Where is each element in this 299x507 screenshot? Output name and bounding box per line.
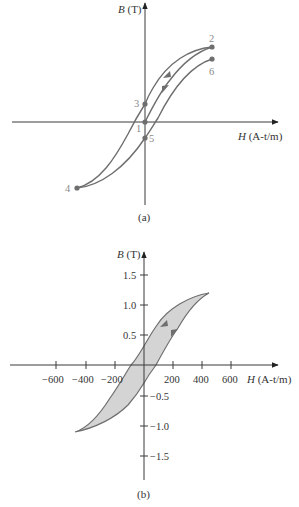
y-tick-label: −0.5 [150,391,169,402]
x-tick-label: 400 [193,374,209,385]
panel-label-a: (a) [138,211,151,224]
x-tick-label: 200 [164,374,180,385]
panel-label-b: (b) [137,488,150,501]
point-label-1: 1 [136,123,141,134]
point-label-6: 6 [209,66,214,77]
x-tick-label: −600 [42,374,64,385]
point-label-4: 4 [65,183,71,194]
x-tick-label: −400 [72,374,94,385]
chart-panel-b: B (T) H (A-t/m) −600 −400 −200 200 400 6… [10,248,292,501]
point-4 [74,185,79,190]
b-axis-label-b: B (T) [117,248,141,261]
y-tick-label: 1.0 [123,300,136,311]
b-axis-label-a: B (T) [118,3,142,16]
y-tick-label: −1.5 [150,451,169,462]
y-tick-label: 0.5 [123,330,136,341]
hysteresis-loop-b [75,293,209,432]
x-tick-label: −200 [101,374,123,385]
h-axis-label-a: H (A-t/m) [237,130,283,143]
h-axis-label-b: H (A-t/m) [246,373,292,386]
point-label-2: 2 [209,33,214,44]
chart-panel-a: B (T) H (A-t/m) 1 2 3 4 5 6 (a) [12,3,283,224]
y-tick-label: 1.5 [123,270,136,281]
point-2 [209,44,214,49]
point-label-5: 5 [149,133,154,144]
point-label-3: 3 [134,98,139,109]
y-tick-label: −1.0 [150,421,169,432]
point-3 [142,101,147,106]
x-tick-label: 600 [222,374,238,385]
point-1 [142,119,147,124]
point-6 [209,56,214,61]
hysteresis-figure: B (T) H (A-t/m) 1 2 3 4 5 6 (a) B (T) H … [0,0,299,507]
point-5 [142,135,147,140]
arrow-up-right-icon [162,85,169,93]
